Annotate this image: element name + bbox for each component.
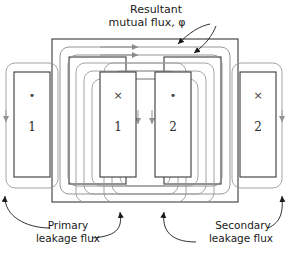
transformer-flux-diagram: • 1 × 1 • 2 × 2 Resultant mutual bbox=[0, 0, 287, 256]
primary-leakage-label-line2: leakage flux bbox=[36, 232, 100, 244]
current-into-page-cross-icon-1: × bbox=[113, 89, 122, 102]
coil-boxes bbox=[14, 72, 276, 177]
secondary-leakage-leader-centre bbox=[164, 212, 196, 242]
annotation-secondary-leakage: Secondary leakage flux bbox=[209, 219, 273, 244]
mutual-flux-label-line2: mutual flux, φ bbox=[109, 16, 186, 29]
diagram-canvas: • 1 × 1 • 2 × 2 Resultant mutual bbox=[0, 0, 287, 256]
coil-markers-and-numbers: • 1 × 1 • 2 × 2 bbox=[28, 89, 262, 134]
primary-leakage-label-line1: Primary bbox=[48, 219, 89, 231]
secondary-leakage-label-line1: Secondary bbox=[215, 219, 271, 231]
mutual-flux-paths bbox=[60, 47, 230, 194]
coil-label-right-outer: 2 bbox=[254, 120, 262, 134]
annotation-primary-leakage: Primary leakage flux bbox=[36, 219, 100, 244]
annotation-mutual-flux: Resultant mutual flux, φ bbox=[109, 3, 186, 29]
current-into-page-cross-icon-2: × bbox=[253, 89, 262, 102]
current-out-of-page-dot-icon-1: • bbox=[29, 89, 36, 102]
coil-label-left-inner: 1 bbox=[114, 120, 122, 134]
mutual-flux-loop-outer bbox=[60, 47, 230, 194]
coil-label-left-outer: 1 bbox=[28, 120, 36, 134]
current-out-of-page-dot-icon-2: • bbox=[170, 89, 177, 102]
mutual-flux-loop-inner bbox=[68, 55, 222, 186]
secondary-leakage-label-line2: leakage flux bbox=[209, 232, 273, 244]
primary-leakage-leader-left bbox=[5, 196, 50, 228]
coil-label-right-inner: 2 bbox=[169, 120, 177, 134]
mutual-flux-label-line1: Resultant bbox=[130, 3, 183, 16]
